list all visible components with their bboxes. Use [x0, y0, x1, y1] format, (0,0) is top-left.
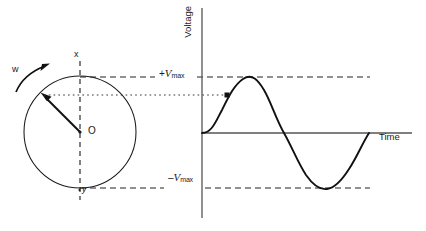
label-vmax-negative: –Vmax — [168, 172, 193, 183]
circle-center-dot — [78, 130, 81, 133]
label-time-axis: Time — [379, 132, 400, 142]
label-vmax-positive: +Vmax — [159, 68, 184, 79]
phasor-diagram-group — [16, 61, 136, 200]
angular-velocity-arrowhead — [41, 64, 51, 72]
label-x-axis-top: x — [74, 50, 79, 59]
sine-wave-generation-figure: x y O w Time Voltage +Vmax –Vmax — [0, 0, 426, 231]
label-vmax-negative-subscript: max — [180, 176, 193, 183]
label-angular-velocity: w — [12, 65, 19, 74]
label-origin: O — [88, 126, 96, 136]
angular-velocity-arc — [16, 66, 45, 92]
figure-canvas — [0, 0, 426, 231]
label-y-axis-bottom: y — [82, 185, 87, 194]
rotating-vector-arrowhead — [41, 93, 52, 102]
label-vmax-positive-subscript: max — [172, 72, 185, 79]
label-vmax-positive-var: V — [165, 67, 172, 79]
label-voltage-axis: Voltage — [183, 6, 193, 38]
rotating-vector-line — [46, 98, 81, 133]
waveform-graph-group — [202, 8, 412, 218]
y-marker-dot — [78, 189, 80, 191]
